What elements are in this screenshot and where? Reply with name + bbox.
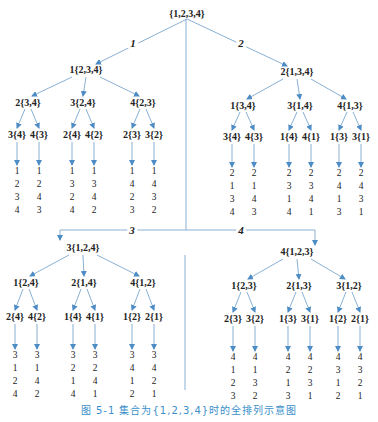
permutation-digit: 1 — [287, 195, 292, 205]
permutation-digit: 4 — [13, 390, 18, 400]
permutation-digit: 3 — [71, 351, 76, 361]
leaf-subset-node: 3{4} — [223, 132, 241, 142]
permutation-digit: 1 — [309, 208, 314, 218]
permutation-digit: 1 — [337, 195, 342, 205]
permutation-digit: 4 — [308, 353, 313, 363]
permutation-digit: 3 — [152, 351, 157, 361]
permutation-digit: 1 — [130, 167, 135, 177]
subset-node: 3{1,2} — [336, 281, 361, 291]
permutation-digit: 4 — [336, 353, 341, 363]
branch-node: 4{1,2,3} — [281, 247, 314, 257]
permutation-digit: 2 — [13, 377, 18, 387]
edge-label-3: 3 — [127, 225, 137, 236]
permutation-digit: 1 — [252, 182, 257, 192]
subset-node: 4{1,3} — [337, 101, 362, 111]
leaf-subset-node: 2{3} — [224, 314, 242, 324]
permutation-digit: 1 — [359, 208, 364, 218]
permutation-digit: 3 — [37, 206, 42, 216]
branch-node: 2{1,3,4} — [281, 67, 314, 77]
edge-label-2: 2 — [236, 38, 246, 49]
permutation-digit: 4 — [309, 195, 314, 205]
permutation-digit: 4 — [70, 206, 75, 216]
permutation-digit: 1 — [336, 379, 341, 389]
subset-node: 4{2,3} — [130, 98, 155, 108]
permutation-digit: 1 — [358, 392, 363, 402]
permutation-digit: 3 — [13, 351, 18, 361]
subset-node: 1{2,4} — [13, 278, 38, 288]
leaf-subset-node: 2{1} — [145, 312, 163, 322]
permutation-digit: 4 — [92, 193, 97, 203]
permutation-digit: 3 — [358, 366, 363, 376]
leaf-subset-node: 4{2} — [85, 130, 103, 140]
permutation-digit: 2 — [71, 364, 76, 374]
branch-node: 3{1,2,4} — [67, 243, 100, 253]
leaf-subset-node: 1{3} — [279, 314, 297, 324]
permutation-digit: 1 — [15, 167, 20, 177]
permutation-digit: 4 — [286, 353, 291, 363]
permutation-digit: 3 — [15, 193, 20, 203]
permutation-digit: 1 — [253, 366, 258, 376]
permutation-digit: 4 — [37, 193, 42, 203]
permutation-digit: 3 — [286, 392, 291, 402]
permutation-digit: 3 — [130, 351, 135, 361]
permutation-digit: 2 — [252, 169, 257, 179]
leaf-subset-node: 2{4} — [63, 130, 81, 140]
permutation-digit: 2 — [37, 180, 42, 190]
leaf-subset-node: 4{1} — [302, 132, 320, 142]
permutation-digit: 2 — [337, 169, 342, 179]
leaf-subset-node: 1{4} — [280, 132, 298, 142]
leaf-subset-node: 2{4} — [6, 312, 24, 322]
subset-node: 3{2,4} — [70, 98, 95, 108]
leaf-subset-node: 4{3} — [245, 132, 263, 142]
permutation-digit: 4 — [337, 182, 342, 192]
permutation-digit: 3 — [252, 208, 257, 218]
permutation-digit: 1 — [152, 390, 157, 400]
permutation-digit: 4 — [230, 208, 235, 218]
leaf-subset-node: 1{2} — [329, 314, 347, 324]
permutation-digit: 2 — [92, 206, 97, 216]
root-node: {1,2,3,4} — [169, 9, 204, 19]
permutation-digit: 2 — [35, 390, 40, 400]
edge-label-4: 4 — [236, 225, 246, 236]
leaf-subset-node: 4{2} — [28, 312, 46, 322]
permutation-digit: 2 — [336, 392, 341, 402]
permutation-digit: 3 — [70, 180, 75, 190]
permutation-digit: 3 — [231, 392, 236, 402]
leaf-subset-node: 2{1} — [351, 314, 369, 324]
branch-node: 1{2,3,4} — [70, 65, 103, 75]
permutation-digit: 1 — [71, 377, 76, 387]
leaf-subset-node: 2{3} — [123, 130, 141, 140]
permutation-digit: 2 — [130, 390, 135, 400]
permutation-digit: 1 — [152, 167, 157, 177]
subset-node: 1{2,3} — [231, 281, 256, 291]
subset-node: 3{1,4} — [287, 101, 312, 111]
permutation-digit: 2 — [287, 169, 292, 179]
leaf-subset-node: 1{3} — [330, 132, 348, 142]
permutation-digit: 3 — [359, 195, 364, 205]
permutation-digit: 1 — [286, 379, 291, 389]
permutation-digit: 2 — [359, 169, 364, 179]
permutation-digit: 2 — [358, 379, 363, 389]
leaf-subset-node: 4{3} — [30, 130, 48, 140]
leaf-subset-node: 3{2} — [145, 130, 163, 140]
permutation-digit: 4 — [358, 353, 363, 363]
permutation-digit: 3 — [230, 195, 235, 205]
permutation-digit: 1 — [92, 167, 97, 177]
permutation-digit: 4 — [71, 390, 76, 400]
permutation-digit: 1 — [130, 377, 135, 387]
permutation-digit: 4 — [253, 353, 258, 363]
permutation-digit: 2 — [230, 169, 235, 179]
permutation-digit: 3 — [130, 206, 135, 216]
edge-label-1: 1 — [128, 38, 138, 49]
permutation-digit: 4 — [130, 180, 135, 190]
permutation-digit: 2 — [231, 379, 236, 389]
leaf-subset-node: 1{4} — [64, 312, 82, 322]
permutation-digit: 3 — [92, 180, 97, 190]
permutation-digit: 4 — [287, 208, 292, 218]
subset-node: 2{1,4} — [71, 278, 96, 288]
permutation-digit: 4 — [359, 182, 364, 192]
figure-caption: 图 5-1 集合为{1,2,3,4}时的全排列示意图 — [0, 402, 378, 417]
permutation-digit: 4 — [252, 195, 257, 205]
permutation-digit: 2 — [70, 193, 75, 203]
leaf-subset-node: 3{4} — [8, 130, 26, 140]
